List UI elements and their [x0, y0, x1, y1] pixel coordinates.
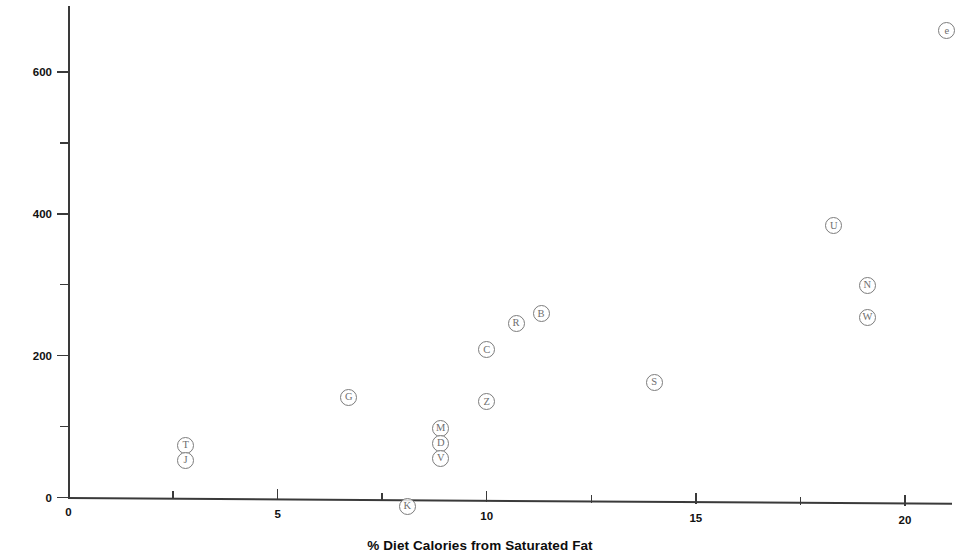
x-tick-0 [68, 487, 69, 498]
y-tick-500 [60, 142, 68, 143]
y-tick-200 [57, 355, 68, 356]
y-tick-100 [60, 426, 68, 427]
data-point-R[interactable]: R [508, 315, 525, 332]
data-point-J[interactable]: J [177, 452, 194, 469]
x-axis-title: % Diet Calories from Saturated Fat [0, 538, 960, 553]
x-tick-5 [277, 489, 278, 500]
x-tick-label-5: 5 [274, 508, 280, 520]
y-tick-0 [57, 497, 68, 498]
x-tick-15 [695, 493, 696, 504]
x-tick-20 [904, 495, 905, 506]
x-tick-label-0: 0 [65, 506, 71, 518]
data-point-N[interactable]: N [859, 277, 876, 294]
data-point-C[interactable]: C [478, 341, 495, 358]
x-tick-10 [486, 491, 487, 502]
x-tick-label-15: 15 [689, 512, 702, 524]
data-point-G[interactable]: G [340, 389, 357, 406]
data-point-W[interactable]: W [859, 309, 876, 326]
y-tick-label-400: 400 [10, 208, 52, 220]
x-tick-17.5 [800, 497, 801, 505]
data-point-S[interactable]: S [646, 374, 663, 391]
scatter-plot-figure: 0200400600 05101520 10-Year Coronary Dea… [0, 0, 960, 559]
data-point-Z[interactable]: Z [478, 393, 495, 410]
y-tick-label-200: 200 [10, 350, 52, 362]
y-axis-line [68, 6, 70, 499]
data-point-U[interactable]: U [825, 217, 842, 234]
x-tick-12.5 [591, 495, 592, 503]
x-tick-label-20: 20 [899, 514, 912, 526]
y-tick-400 [57, 213, 68, 214]
x-tick-label-10: 10 [480, 510, 493, 522]
data-point-V[interactable]: V [432, 450, 449, 467]
y-tick-label-0: 0 [10, 492, 52, 504]
y-tick-300 [60, 284, 68, 285]
data-point-M[interactable]: M [432, 420, 449, 437]
y-tick-label-600: 600 [10, 66, 52, 78]
y-tick-600 [57, 71, 68, 72]
plot-area: TJGKMDVCZRBSUNWe [0, 0, 960, 559]
data-point-e[interactable]: e [938, 22, 955, 39]
x-tick-2.5 [172, 491, 173, 499]
data-point-B[interactable]: B [533, 305, 550, 322]
data-point-K[interactable]: K [399, 498, 416, 515]
x-axis-line [68, 497, 952, 504]
x-tick-7.5 [381, 493, 382, 501]
